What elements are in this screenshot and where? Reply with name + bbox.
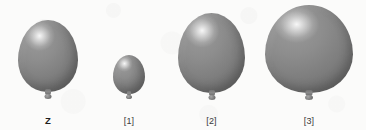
balloon-label-3: [3]	[304, 116, 315, 126]
balloon-label-z: Z	[45, 115, 51, 126]
balloon-knot-z	[45, 94, 52, 99]
balloon-item-3: [3]	[265, 0, 353, 130]
balloon-item-1: [1]	[113, 0, 145, 130]
balloon-body-2	[178, 13, 245, 93]
balloon-knot-1	[126, 95, 132, 99]
balloon-item-2: [2]	[178, 0, 245, 130]
balloon-item-z: Z	[18, 0, 78, 130]
balloon-label-1: [1]	[124, 116, 135, 126]
balloon-knot-3	[305, 95, 313, 100]
balloon-knot-2	[208, 95, 215, 100]
illustration-canvas: Z [1] [2] [3]	[0, 0, 366, 130]
balloon-body-1	[113, 55, 145, 94]
balloon-label-2: [2]	[206, 116, 217, 126]
balloon-body-z	[18, 20, 78, 92]
balloon-body-3	[265, 5, 353, 93]
